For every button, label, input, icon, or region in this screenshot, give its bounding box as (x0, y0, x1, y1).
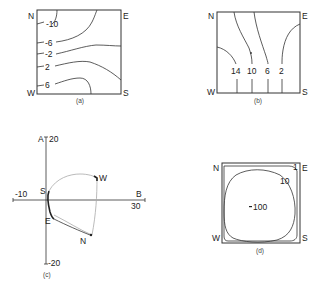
panel-d-corner-e: E (302, 163, 308, 173)
contour-b-10-upper (234, 12, 252, 64)
tick-a-neg6 (37, 42, 44, 43)
panel-c-caption: (c) (43, 271, 51, 279)
contour-a-neg6 (56, 10, 97, 42)
panel-b-point (250, 52, 252, 54)
axis-a-min: -20 (48, 258, 61, 268)
panel-d-corner-w: W (212, 233, 220, 243)
panel-b-corner-w: W (207, 87, 215, 97)
tick-a-6 (37, 85, 44, 86)
axis-b-label: B (136, 189, 142, 199)
label-a-2: 2 (45, 62, 50, 72)
trajectory-s-to-e (48, 191, 54, 219)
panel-b-corner-s: S (302, 87, 308, 97)
panel-d-corner-n: N (213, 163, 219, 173)
panel-b-caption: (b) (254, 97, 262, 105)
contour-b-6-upper (254, 12, 268, 64)
point-n-label: N (80, 236, 86, 246)
contour-a-neg2 (56, 45, 121, 54)
trajectory-faint (49, 174, 97, 235)
axis-b-min: -10 (15, 189, 28, 199)
label-a-6: 6 (45, 80, 50, 90)
panel-a-corner-w: W (27, 88, 35, 98)
label-d-1: 1 (293, 162, 298, 172)
panel-d-corner-s: S (302, 233, 308, 243)
point-w-label: W (99, 173, 107, 183)
label-b-14: 14 (231, 66, 241, 76)
panel-a-corner-s: S (123, 88, 129, 98)
panel-c: A 20 -20 B 30 -10 S W E N (c) (13, 134, 145, 279)
point-s-label: S (40, 186, 46, 196)
tick-a-neg10 (37, 22, 44, 24)
label-a-neg10: -10 (46, 19, 59, 29)
panel-a-corner-n: N (28, 11, 34, 21)
axis-a-max: 20 (49, 134, 59, 144)
panel-a-corner-e: E (123, 11, 129, 21)
point-n (90, 234, 92, 236)
panel-b-corner-n: N (208, 11, 214, 21)
tick-a-neg2 (37, 53, 44, 54)
panel-d: N E W S 1 10 100 (d) (212, 162, 308, 255)
panel-b-frame (217, 12, 300, 93)
tick-a-2 (37, 66, 44, 67)
figure: N E W S -10 -6 -2 2 6 (a) N E W S 14 (0, 0, 318, 284)
label-b-6: 6 (265, 66, 270, 76)
label-a-neg6: -6 (45, 38, 53, 48)
label-b-10: 10 (247, 66, 257, 76)
label-a-neg2: -2 (45, 49, 53, 59)
label-b-2: 2 (279, 66, 284, 76)
trajectory-w-mark (94, 176, 97, 181)
contour-b-2-upper (282, 24, 300, 64)
center-mark (249, 206, 252, 207)
axis-b-max: 30 (131, 201, 141, 211)
contour-a-6 (55, 78, 91, 94)
contour-b-14-upper (217, 47, 236, 64)
contour-a-2 (55, 61, 121, 80)
panel-a: N E W S -10 -6 -2 2 6 (a) (27, 10, 129, 105)
trajectory-e-to-n (54, 219, 90, 235)
panel-d-caption: (d) (256, 247, 264, 255)
point-e-label: E (45, 216, 51, 226)
panel-b-corner-e: E (302, 11, 308, 21)
axis-a-label: A (38, 134, 44, 144)
label-d-center: 100 (253, 202, 267, 212)
panel-b: N E W S 14 10 6 2 (b) (207, 11, 308, 105)
panel-a-caption: (a) (76, 97, 84, 105)
label-d-10: 10 (280, 176, 290, 186)
